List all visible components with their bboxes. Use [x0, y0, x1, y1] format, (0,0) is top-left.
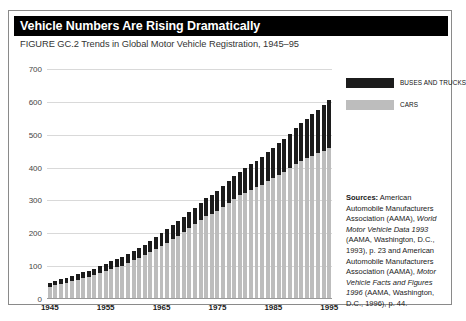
bar-segment-cars — [238, 195, 242, 299]
bar-segment-buses-and-trucks — [187, 212, 191, 228]
bar-segment-cars — [227, 203, 231, 299]
y-axis-tick-label: 100 — [29, 262, 42, 271]
bar-segment-cars — [76, 280, 80, 299]
bar-segment-buses-and-trucks — [238, 172, 242, 196]
sources-label: Sources: — [346, 193, 378, 202]
bar-segment-cars — [115, 267, 119, 299]
bar-segment-cars — [143, 255, 147, 299]
bar-segment-cars — [310, 156, 314, 299]
x-axis-tick-label: 1955 — [97, 303, 115, 312]
x-axis-tick-label: 1985 — [264, 303, 282, 312]
bar-segment-cars — [232, 199, 236, 299]
gridline — [47, 102, 332, 103]
legend-swatch — [346, 100, 394, 110]
bar-segment-cars — [70, 281, 74, 299]
bar-segment-buses-and-trucks — [221, 186, 225, 207]
bar-segment-buses-and-trucks — [171, 225, 175, 239]
bar-segment-buses-and-trucks — [160, 233, 164, 245]
bar-segment-buses-and-trucks — [109, 261, 113, 269]
bar-segment-cars — [288, 168, 292, 299]
bar-segment-cars — [249, 190, 253, 299]
bar-segment-buses-and-trucks — [299, 123, 303, 161]
sources-note: Sources: American Automobile Manufacture… — [346, 193, 449, 310]
bar-segment-buses-and-trucks — [322, 105, 326, 150]
bar-segment-cars — [132, 260, 136, 299]
bar-segment-cars — [126, 263, 130, 299]
bar-segment-buses-and-trucks — [132, 251, 136, 261]
bar-segment-buses-and-trucks — [126, 254, 130, 263]
bar-segment-cars — [160, 246, 164, 299]
bar-segment-buses-and-trucks — [260, 157, 264, 185]
bar-segment-cars — [81, 278, 85, 299]
gridline — [47, 69, 332, 70]
x-axis-tick-label: 1965 — [153, 303, 171, 312]
bar-segment-cars — [87, 277, 91, 299]
x-axis-line — [47, 298, 332, 299]
bar-segment-cars — [182, 232, 186, 299]
y-axis-tick-label: 400 — [29, 163, 42, 172]
figure-subtitle: FIGURE GC.2 Trends in Global Motor Vehic… — [20, 39, 299, 49]
bar-segment-buses-and-trucks — [115, 259, 119, 267]
x-axis-tick-label: 1945 — [41, 303, 59, 312]
bar-segment-buses-and-trucks — [48, 283, 52, 287]
bar-segment-cars — [137, 258, 141, 299]
chart-plot-area: 0100200300400500600700 19451955196519751… — [47, 69, 332, 299]
bar-segment-cars — [282, 172, 286, 299]
bar-segment-cars — [277, 175, 281, 299]
bar-segment-cars — [120, 266, 124, 300]
bar-segment-buses-and-trucks — [92, 269, 96, 276]
bar-segment-buses-and-trucks — [120, 257, 124, 266]
bar-segment-buses-and-trucks — [271, 148, 275, 178]
bar-segment-cars — [65, 283, 69, 299]
bar-segment-cars — [322, 151, 326, 300]
legend-label: BUSES AND TRUCKS — [400, 78, 466, 88]
bar-segment-buses-and-trucks — [305, 119, 309, 158]
bar-segment-buses-and-trucks — [327, 100, 331, 148]
bar-segment-buses-and-trucks — [204, 198, 208, 216]
legend-buses-and-trucks: BUSES AND TRUCKS — [346, 77, 446, 93]
bar-segment-buses-and-trucks — [266, 152, 270, 181]
bar-segment-buses-and-trucks — [70, 276, 74, 281]
bar-segment-cars — [109, 269, 113, 299]
bar-segment-cars — [193, 224, 197, 299]
bar-segment-cars — [299, 161, 303, 299]
bar-segment-buses-and-trucks — [59, 279, 63, 284]
y-axis-tick-label: 200 — [29, 229, 42, 238]
bar-segment-buses-and-trucks — [81, 272, 85, 278]
bar-segment-cars — [327, 148, 331, 299]
bar-segment-buses-and-trucks — [199, 203, 203, 220]
bar-segment-buses-and-trucks — [65, 278, 69, 283]
title-bar: Vehicle Numbers Are Rising Dramatically — [14, 16, 448, 36]
bar-segment-buses-and-trucks — [294, 128, 298, 164]
bar-segment-cars — [98, 273, 102, 299]
bar-segment-buses-and-trucks — [137, 248, 141, 258]
figure-container: Vehicle Numbers Are Rising Dramatically … — [8, 10, 452, 305]
bar-segment-buses-and-trucks — [316, 110, 320, 153]
bar-segment-buses-and-trucks — [143, 245, 147, 256]
bar-segment-cars — [266, 181, 270, 299]
bar-segment-buses-and-trucks — [282, 139, 286, 172]
bar-segment-buses-and-trucks — [53, 281, 57, 285]
bar-segment-buses-and-trucks — [255, 161, 259, 188]
bar-segment-buses-and-trucks — [215, 191, 219, 211]
bar-segment-buses-and-trucks — [232, 176, 236, 199]
bar-segment-buses-and-trucks — [98, 266, 102, 273]
bar-segment-buses-and-trucks — [148, 241, 152, 252]
x-axis-tick-label: 1995 — [320, 303, 338, 312]
bar-segment-cars — [243, 193, 247, 299]
bar-segment-buses-and-trucks — [154, 237, 158, 249]
bar-segment-cars — [271, 178, 275, 299]
bar-segment-cars — [53, 285, 57, 299]
x-axis-tick-label: 1975 — [209, 303, 227, 312]
bar-segment-cars — [260, 185, 264, 299]
bar-segment-cars — [187, 228, 191, 299]
bar-segment-buses-and-trucks — [193, 208, 197, 224]
bar-segment-cars — [104, 271, 108, 299]
bar-segment-cars — [148, 252, 152, 299]
bar-segment-cars — [221, 207, 225, 299]
bar-segment-buses-and-trucks — [176, 221, 180, 235]
bar-segment-cars — [171, 239, 175, 299]
bar-segment-buses-and-trucks — [76, 274, 80, 280]
legend-swatch — [346, 78, 394, 88]
bar-segment-buses-and-trucks — [288, 134, 292, 169]
